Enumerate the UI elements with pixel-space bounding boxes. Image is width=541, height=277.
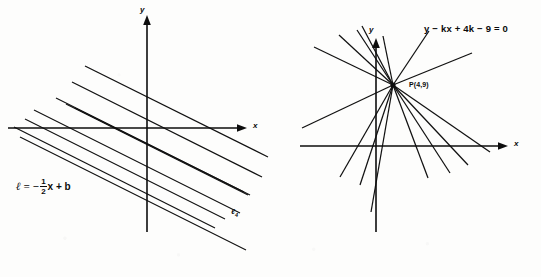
left-panel-axes (8, 15, 247, 232)
one-half-fraction: 12 (40, 178, 46, 196)
left-x-axis-arrowhead (237, 124, 247, 132)
left-y-axis-arrowhead (143, 15, 151, 25)
slope-intercept-equation-label: ℓ = −12x + b (16, 178, 71, 196)
pencil-ray-5 (362, 26, 393, 85)
slope-label-trail: x + b (48, 181, 71, 192)
parallel-line-5 (75, 108, 244, 192)
line-tag-label: ℓ4 (231, 208, 238, 218)
pencil-ray-12 (393, 85, 468, 165)
figure-canvas (0, 0, 541, 277)
parallel-line-6 (34, 110, 240, 213)
slope-label-lead: ℓ = − (16, 180, 39, 192)
line-tag-subscript: 4 (235, 212, 238, 218)
parallel-line-1 (85, 66, 268, 157)
right-x-axis-label: x (514, 140, 518, 148)
left-x-axis-label: x (253, 122, 257, 130)
fraction-denominator: 2 (40, 187, 46, 196)
pencil-point-marker (390, 82, 395, 87)
right-y-axis-label: y (369, 26, 373, 34)
pencil-ray-7 (393, 53, 472, 85)
pencil-ray-13 (393, 85, 490, 152)
parallel-line-2 (72, 82, 262, 177)
left-panel-lines (14, 66, 268, 250)
pencil-point-label: P(4,9) (409, 81, 429, 88)
right-panel-axes (300, 38, 508, 232)
right-x-axis-arrowhead (498, 142, 508, 150)
pencil-ray-6 (393, 31, 429, 85)
figure-root: y x ℓ = −12x + b ℓ4 y x y − kx + 4k − 9 … (0, 0, 541, 277)
right-y-axis-arrowhead (372, 38, 380, 48)
fraction-numerator: 1 (40, 178, 46, 187)
left-y-axis-label: y (140, 6, 144, 14)
pencil-equation-label: y − kx + 4k − 9 = 0 (424, 24, 508, 34)
right-panel-lines (302, 26, 490, 212)
pencil-ray-1 (302, 85, 393, 128)
